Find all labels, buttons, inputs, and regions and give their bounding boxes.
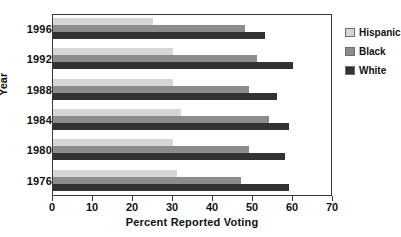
y-ticklabel-1992: 1992 bbox=[6, 53, 52, 65]
y-ticklabel-1984: 1984 bbox=[6, 114, 52, 126]
bar-hispanic-1984 bbox=[53, 109, 181, 116]
legend-label: White bbox=[359, 65, 386, 76]
x-ticklabel-0: 0 bbox=[37, 201, 67, 213]
x-ticklabel-60: 60 bbox=[277, 201, 307, 213]
bar-white-1992 bbox=[53, 62, 293, 69]
y-ticklabel-1976: 1976 bbox=[6, 175, 52, 187]
x-ticklabel-20: 20 bbox=[117, 201, 147, 213]
bar-hispanic-1976 bbox=[53, 170, 177, 177]
bar-black-1988 bbox=[53, 86, 249, 93]
plot-area bbox=[52, 14, 332, 196]
legend-swatch-hispanic-icon bbox=[345, 28, 355, 37]
bar-white-1988 bbox=[53, 93, 277, 100]
bar-hispanic-1980 bbox=[53, 139, 173, 146]
x-ticklabel-40: 40 bbox=[197, 201, 227, 213]
legend-label: Black bbox=[359, 46, 386, 57]
bar-white-1984 bbox=[53, 123, 289, 130]
bar-group bbox=[53, 17, 331, 47]
x-ticklabel-70: 70 bbox=[317, 201, 347, 213]
bar-group bbox=[53, 138, 331, 168]
bar-black-1980 bbox=[53, 146, 249, 153]
legend: HispanicBlackWhite bbox=[345, 24, 401, 81]
y-ticklabel-1980: 1980 bbox=[6, 144, 52, 156]
x-ticklabel-50: 50 bbox=[237, 201, 267, 213]
legend-item-white: White bbox=[345, 62, 401, 78]
bar-white-1980 bbox=[53, 153, 285, 160]
bar-group bbox=[53, 78, 331, 108]
x-ticklabel-10: 10 bbox=[77, 201, 107, 213]
bar-black-1996 bbox=[53, 25, 245, 32]
bar-hispanic-1996 bbox=[53, 18, 153, 25]
legend-swatch-white-icon bbox=[345, 66, 355, 75]
bar-white-1976 bbox=[53, 184, 289, 191]
bar-hispanic-1992 bbox=[53, 48, 173, 55]
legend-label: Hispanic bbox=[359, 27, 401, 38]
legend-item-hispanic: Hispanic bbox=[345, 24, 401, 40]
bar-white-1996 bbox=[53, 32, 265, 39]
y-ticklabel-1996: 1996 bbox=[6, 23, 52, 35]
legend-swatch-black-icon bbox=[345, 47, 355, 56]
bar-black-1992 bbox=[53, 55, 257, 62]
x-ticklabel-30: 30 bbox=[157, 201, 187, 213]
bar-black-1976 bbox=[53, 177, 241, 184]
bar-black-1984 bbox=[53, 116, 269, 123]
bar-group bbox=[53, 47, 331, 77]
y-ticklabel-1988: 1988 bbox=[6, 84, 52, 96]
x-axis-title: Percent Reported Voting bbox=[52, 216, 332, 228]
legend-item-black: Black bbox=[345, 43, 401, 59]
bar-hispanic-1988 bbox=[53, 79, 173, 86]
bar-group bbox=[53, 108, 331, 138]
bar-group bbox=[53, 169, 331, 199]
